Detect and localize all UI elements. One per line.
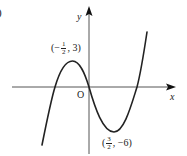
min-point-rest: , −6): [113, 137, 132, 148]
max-point-fraction: 12: [61, 41, 67, 56]
max-point-sign: −: [54, 42, 60, 53]
max-point-denominator: 2: [62, 49, 66, 56]
y-axis-label: y: [77, 12, 81, 22]
max-point-label: (−12, 3): [51, 41, 81, 56]
min-point-fraction: 32: [106, 136, 112, 151]
function-graph: [0, 0, 187, 156]
min-point-open: (: [102, 137, 105, 148]
max-point-rest: , 3): [67, 42, 80, 53]
min-point-denominator: 2: [107, 144, 111, 151]
corner-label: ): [0, 7, 2, 18]
x-axis-label: x: [170, 92, 174, 102]
origin-label: O: [77, 90, 84, 100]
min-point-label: (32, −6): [102, 136, 132, 151]
